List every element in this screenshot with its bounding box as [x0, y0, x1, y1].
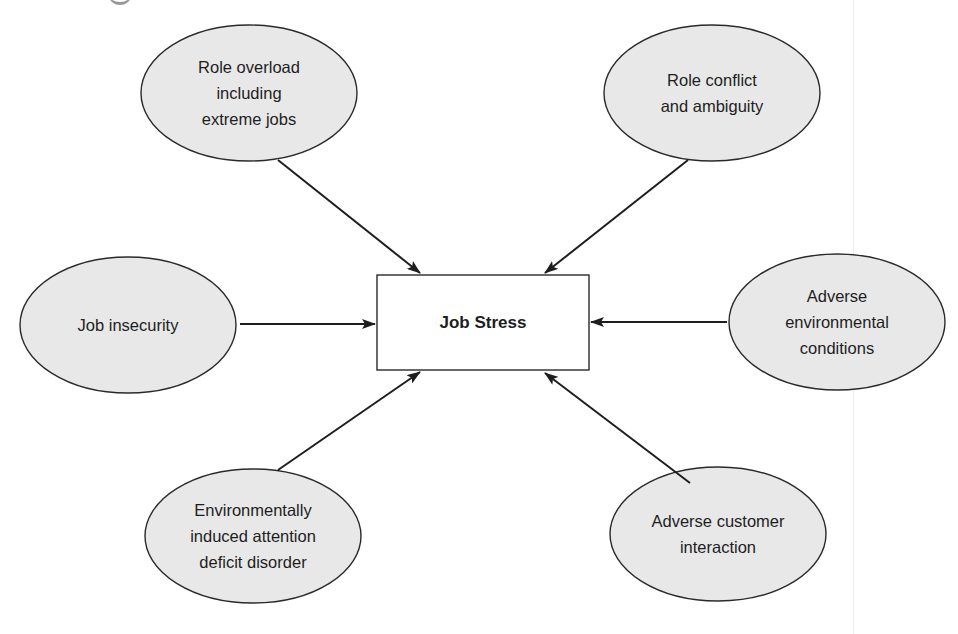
- node-text: Job insecurity: [78, 312, 179, 338]
- node-label-eiadd: Environmentally induced attention defici…: [145, 469, 361, 603]
- arrow-role-overload: [278, 160, 420, 273]
- node-label-role-conflict: Role conflict and ambiguity: [604, 25, 820, 161]
- node-text: Adverse customer interaction: [652, 508, 785, 560]
- job-stress-label: Job Stress: [377, 275, 589, 370]
- node-text: Adverse environmental conditions: [785, 283, 889, 361]
- node-label-job-insecurity: Job insecurity: [20, 257, 236, 393]
- node-text: Role overload including extreme jobs: [198, 54, 300, 132]
- node-text: Role conflict and ambiguity: [661, 67, 764, 119]
- arrow-eiadd: [278, 372, 420, 470]
- center-text: Job Stress: [440, 313, 527, 333]
- node-label-adverse-customer: Adverse customer interaction: [610, 467, 826, 601]
- node-label-role-overload: Role overload including extreme jobs: [141, 25, 357, 161]
- arrow-role-conflict: [545, 160, 688, 273]
- node-text: Environmentally induced attention defici…: [190, 497, 316, 575]
- node-label-adverse-environmental: Adverse environmental conditions: [729, 254, 945, 390]
